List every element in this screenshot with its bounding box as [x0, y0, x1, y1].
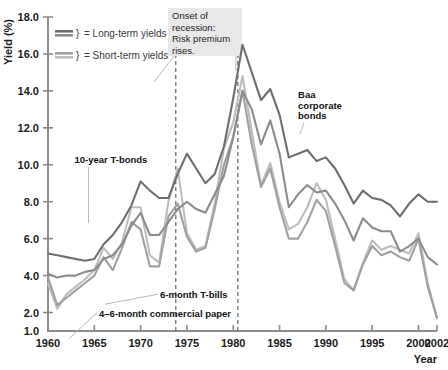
y-tick-label: 2.0: [24, 307, 39, 319]
y-tick-label: 12.0: [18, 122, 39, 134]
y-tick-label: 14.0: [18, 85, 39, 97]
series-line-4-6-month-commercial-paper: [48, 76, 437, 318]
annotation-baa: corporate: [298, 100, 342, 111]
yield-curve-chart: 1.02.04.06.08.010.012.014.016.018.019601…: [0, 0, 448, 370]
y-tick-label: 10.0: [18, 159, 39, 171]
legend-brace: }: [76, 50, 80, 61]
axis-lines: [48, 17, 437, 331]
y-tick-label: 6.0: [24, 233, 39, 245]
legend-label: = Short-term yields: [84, 50, 168, 61]
y-tick-label: 8.0: [24, 196, 39, 208]
x-tick-label: 1975: [175, 337, 199, 349]
y-axis-title: Yield (%): [2, 19, 14, 65]
x-tick-label: 1990: [314, 337, 338, 349]
recession-callout-line: rises.: [172, 45, 195, 56]
chart-canvas: 1.02.04.06.08.010.012.014.016.018.019601…: [0, 0, 448, 370]
x-tick-label: 1995: [360, 337, 384, 349]
recession-callout-line: Onset of: [172, 10, 208, 21]
y-tick-label: 16.0: [18, 48, 39, 60]
y-tick-label: 4.0: [24, 270, 39, 282]
legend-label: = Long-term yields: [84, 28, 167, 39]
y-tick-label: 1.0: [24, 325, 39, 337]
series-line-6-month-t-bills: [48, 91, 437, 318]
legend-entry: }= Short-term yields: [55, 50, 168, 61]
legend-brace: }: [76, 28, 80, 39]
legend-swatch: [55, 56, 73, 59]
recession-callout-line: Risk premium: [172, 33, 230, 44]
series-line-10-year-t-bonds: [48, 91, 437, 278]
y-tick-label: 18.0: [18, 11, 39, 23]
annotation-10yr-tbonds: 10-year T-bonds: [75, 154, 148, 165]
annotation-baa: Baa: [298, 89, 316, 100]
annotation-baa-leader: [300, 122, 304, 134]
annotation-6mo-tbills: 6-month T-bills: [160, 289, 228, 300]
legend-entry: }= Long-term yields: [55, 28, 167, 39]
annotation-baa: bonds: [298, 110, 327, 121]
annotation-6mo-leader: [105, 294, 158, 304]
x-tick-label: 1980: [221, 337, 245, 349]
recession-callout-line: recession:: [172, 22, 215, 33]
annotation-commercial-paper: 4–6-month commercial paper: [99, 308, 231, 319]
x-axis-title: Year: [414, 353, 438, 365]
legend-swatch: [55, 30, 73, 33]
legend-swatch: [55, 34, 73, 37]
x-tick-label: 1985: [267, 337, 291, 349]
x-tick-label: 1960: [36, 337, 60, 349]
annotation-cp-leader: [69, 313, 97, 339]
x-tick-label: 1970: [128, 337, 152, 349]
x-tick-label: 2002: [425, 337, 448, 349]
x-tick-label: 1965: [82, 337, 106, 349]
legend-swatch: [55, 52, 73, 55]
